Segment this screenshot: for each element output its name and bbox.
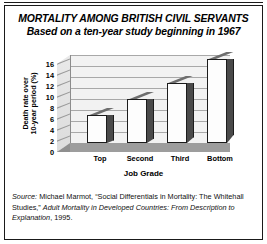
bar-front-face (127, 99, 147, 143)
source-work-title: Adult Mortality in Developed Countries: … (12, 203, 235, 223)
y-tick-label: 14 (46, 72, 54, 79)
bar-side-face (147, 99, 154, 143)
left-wall-gridline (56, 91, 71, 98)
y-tick-label: 4 (50, 127, 54, 134)
x-axis-label: Job Grade (57, 169, 230, 178)
y-tick-label: 6 (50, 116, 54, 123)
bar-front-face (167, 83, 187, 144)
figure-panel: MORTALITY AMONG BRITISH CIVIL SERVANTS B… (0, 0, 267, 244)
y-tick-label: 0 (50, 149, 54, 156)
x-tick-label: Top (94, 154, 107, 163)
y-tick-label: 2 (50, 138, 54, 145)
bar-side-face (227, 59, 234, 143)
page-title: MORTALITY AMONG BRITISH CIVIL SERVANTS (8, 12, 259, 25)
chart-title-block: MORTALITY AMONG BRITISH CIVIL SERVANTS B… (8, 12, 259, 38)
left-wall-gridline (56, 113, 71, 120)
bar (127, 99, 147, 143)
left-wall-gridline (56, 58, 71, 65)
bar-front-face (207, 59, 227, 143)
source-year: , 1995. (50, 213, 72, 222)
bar-side-face (187, 83, 194, 144)
chart-subtitle: Based on a ten-year study beginning in 1… (8, 25, 259, 38)
left-wall-gridline (56, 102, 71, 109)
x-tick-label: Second (127, 154, 154, 163)
y-tick-label: 10 (46, 94, 54, 101)
chart-3d-box (57, 55, 230, 152)
y-axis-ticks: 1614121086420 (36, 55, 54, 153)
source-prefix: Source: (12, 192, 37, 201)
left-wall-gridlines (57, 55, 70, 152)
left-wall-gridline (56, 80, 71, 87)
source-citation: Source: Michael Marmot, “Social Differen… (12, 192, 252, 224)
left-wall-gridline (56, 135, 71, 142)
left-wall-gridline (56, 69, 71, 76)
y-tick-label: 12 (46, 83, 54, 90)
y-tick-label: 16 (46, 61, 54, 68)
bar-side-face (107, 115, 114, 143)
bar (87, 115, 107, 143)
x-tick-label: Third (171, 154, 189, 163)
bar (167, 83, 187, 144)
left-wall-gridline (56, 124, 71, 131)
x-tick-label: Bottom (207, 154, 233, 163)
x-axis-ticks: TopSecondThirdBottom (57, 154, 230, 166)
bar-series (70, 55, 230, 152)
bar-front-face (87, 115, 107, 143)
frame-top-rule (4, 2, 263, 3)
y-tick-label: 8 (50, 105, 54, 112)
bar (207, 59, 227, 143)
chart-plot-area: Death rate over 10-year period (%) 16141… (10, 55, 257, 185)
